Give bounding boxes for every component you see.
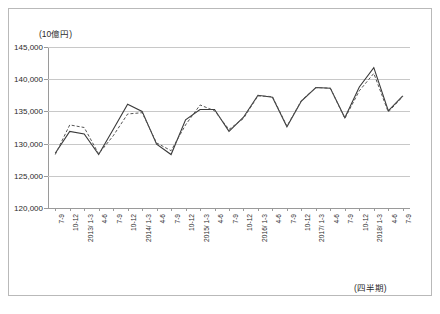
series-dashed-line <box>55 73 403 154</box>
series-solid-line <box>55 68 403 155</box>
chart-series-lines <box>0 0 440 314</box>
